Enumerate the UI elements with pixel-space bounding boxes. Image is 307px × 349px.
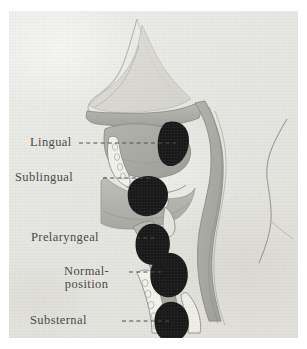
anatomical-figure-panel: Lingual Sublingual Prelaryngeal Normal- …	[9, 11, 298, 338]
label-sublingual: Sublingual	[15, 170, 73, 185]
label-prelaryngeal: Prelaryngeal	[31, 230, 99, 245]
label-lingual-text: Lingual	[30, 135, 72, 149]
label-lingual: Lingual	[30, 135, 72, 150]
label-substernal: Substernal	[30, 313, 87, 328]
label-prelaryngeal-text: Prelaryngeal	[31, 230, 99, 244]
label-substernal-text: Substernal	[30, 313, 87, 327]
label-sublingual-text: Sublingual	[15, 170, 73, 184]
label-position-text: position	[64, 277, 109, 292]
nasal-cavity	[89, 25, 191, 112]
label-normal-text: Normal-	[64, 264, 109, 278]
posterior-neck-contour	[259, 119, 293, 263]
label-normal-position: Normal- position	[64, 264, 109, 292]
mass-normal	[150, 253, 188, 297]
pharyngeal-airway	[195, 101, 226, 325]
